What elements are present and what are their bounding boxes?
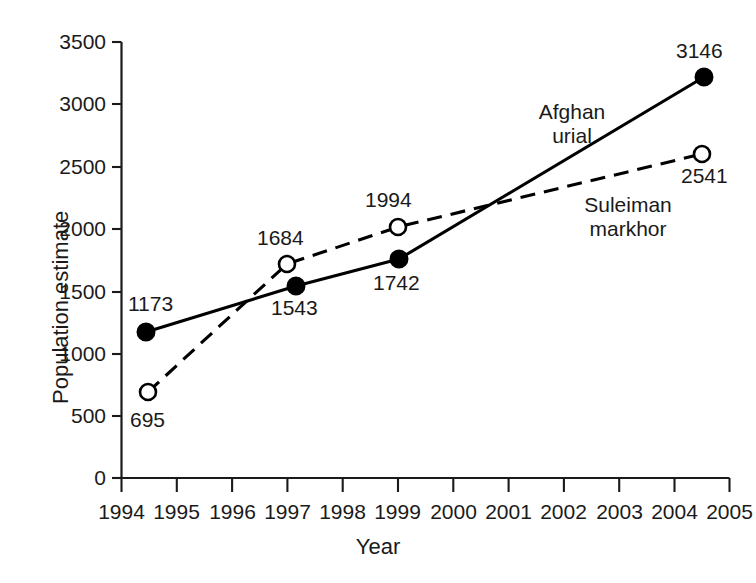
x-tick-label-2000: 2000 (426, 501, 481, 522)
point-value-label-markhor-2541: 2541 (681, 165, 728, 186)
x-tick-label-1999: 1999 (370, 501, 425, 522)
y-tick-label-500: 500 (36, 405, 106, 426)
x-tick-label-2001: 2001 (481, 501, 536, 522)
data-point-urial-1742 (391, 251, 408, 268)
x-tick-label-2004: 2004 (647, 501, 702, 522)
y-tick-label-3000: 3000 (36, 93, 106, 114)
data-point-urial-1543 (288, 278, 305, 295)
y-tick-label-3500: 3500 (36, 31, 106, 52)
x-tick-label-1997: 1997 (260, 501, 315, 522)
point-value-label-urial-1173: 1173 (128, 293, 173, 314)
population-estimate-line-chart: 3500 3000 2500 2000 1500 1000 500 0 1994… (0, 0, 756, 583)
point-value-label-urial-1742: 1742 (373, 272, 420, 293)
data-point-markhor-1994 (390, 219, 406, 235)
x-tick-label-1994: 1994 (94, 501, 149, 522)
series-label-afghan-urial-line1: Afghan (539, 100, 606, 123)
point-value-label-urial-3146: 3146 (676, 40, 723, 61)
series-line-suleiman-markhor (148, 154, 702, 392)
x-tick-label-2002: 2002 (536, 501, 591, 522)
x-tick-label-1995: 1995 (149, 501, 204, 522)
series-label-afghan-urial: Afghan urial (502, 100, 642, 147)
data-point-urial-3146 (696, 69, 713, 86)
y-axis-title: Population estimate (48, 211, 74, 404)
x-tick-label-2003: 2003 (592, 501, 647, 522)
point-value-label-urial-1543: 1543 (271, 297, 318, 318)
x-tick-label-1996: 1996 (205, 501, 260, 522)
point-value-label-markhor-1684: 1684 (257, 227, 304, 248)
x-tick-label-2005: 2005 (702, 501, 756, 522)
markers-suleiman-markhor (140, 146, 710, 400)
series-label-suleiman-markhor-line1: Suleiman (584, 193, 672, 216)
data-point-urial-1173 (138, 324, 155, 341)
x-tick-label-1998: 1998 (315, 501, 370, 522)
point-value-label-markhor-695: 695 (130, 409, 165, 430)
y-tick-label-2500: 2500 (36, 156, 106, 177)
series-label-suleiman-markhor: Suleiman markhor (548, 193, 708, 240)
data-point-markhor-1684 (279, 256, 295, 272)
series-label-suleiman-markhor-line2: markhor (589, 217, 666, 240)
data-point-markhor-695 (140, 384, 156, 400)
x-axis-ticks (122, 478, 730, 492)
y-tick-label-0: 0 (36, 467, 106, 488)
y-axis-ticks (112, 42, 122, 478)
x-axis-title: Year (0, 534, 756, 560)
series-label-afghan-urial-line2: urial (552, 124, 592, 147)
point-value-label-markhor-1994: 1994 (365, 189, 412, 210)
data-point-markhor-2541 (694, 146, 710, 162)
